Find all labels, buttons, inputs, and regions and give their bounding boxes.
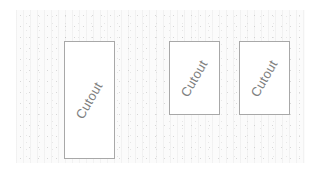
cutout-box-1: Cutout — [64, 41, 115, 159]
cutout-box-2: Cutout — [169, 41, 220, 115]
cutout-label: Cutout — [73, 79, 106, 121]
cutout-label: Cutout — [248, 57, 281, 99]
cutout-label: Cutout — [178, 57, 211, 99]
cutout-box-3: Cutout — [239, 41, 290, 115]
